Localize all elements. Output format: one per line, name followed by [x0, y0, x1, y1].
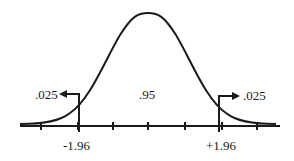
- right-tail-area-label: .025: [243, 88, 266, 103]
- left-critical-value-label: -1.96: [63, 138, 91, 153]
- right-arrow-icon: [232, 92, 240, 100]
- center-area-label: .95: [139, 87, 155, 102]
- normal-distribution-figure: .025 .95 .025 -1.96 +1.96: [0, 0, 294, 161]
- right-critical-value-label: +1.96: [206, 138, 237, 153]
- normal-curve-diagram: .025 .95 .025 -1.96 +1.96: [0, 0, 294, 161]
- left-tail-area-label: .025: [35, 87, 58, 102]
- left-arrow-icon: [59, 90, 67, 98]
- bell-curve: [20, 13, 276, 124]
